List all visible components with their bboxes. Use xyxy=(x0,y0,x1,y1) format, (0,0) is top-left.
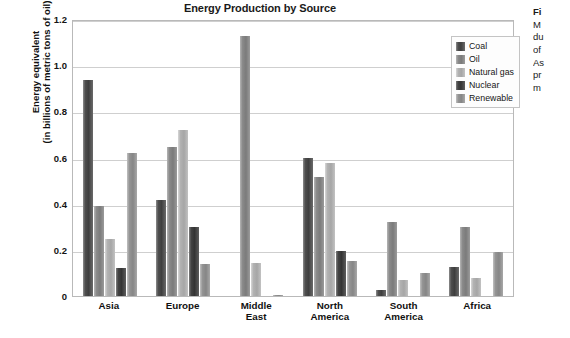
x-axis-tick-label-line: Europe xyxy=(146,300,220,311)
bar[interactable] xyxy=(471,278,481,296)
bar[interactable] xyxy=(336,251,346,296)
bar[interactable] xyxy=(387,222,397,296)
bar-group xyxy=(220,21,293,296)
x-axis-tick-label: NorthAmerica xyxy=(293,300,367,323)
x-axis-tick-label-line: America xyxy=(293,311,367,322)
legend-item[interactable]: Coal xyxy=(456,40,514,52)
legend-item[interactable]: Nuclear xyxy=(456,79,514,91)
x-axis-tick-label-line: Asia xyxy=(72,300,146,311)
bar[interactable] xyxy=(105,239,115,296)
legend-item[interactable]: Oil xyxy=(456,53,514,65)
legend-swatch-icon xyxy=(456,42,465,51)
caption-line: du xyxy=(533,31,570,44)
x-axis-tick-label: Europe xyxy=(146,300,220,323)
bar[interactable] xyxy=(347,261,357,296)
bar[interactable] xyxy=(460,227,470,296)
y-axis-tick-label: 0.2 xyxy=(27,245,67,256)
y-axis-tick-label: 1.0 xyxy=(27,60,67,71)
x-axis-tick-label: MiddleEast xyxy=(219,300,293,323)
bar-group xyxy=(73,21,146,296)
x-axis-tick-label-line: America xyxy=(367,311,441,322)
bar[interactable] xyxy=(303,158,313,297)
x-axis-tick-label-line: Africa xyxy=(440,300,514,311)
bar[interactable] xyxy=(325,163,335,296)
caption-line: pr xyxy=(533,69,570,82)
bar[interactable] xyxy=(493,252,503,296)
bar[interactable] xyxy=(420,273,430,296)
chart-page: Energy Production by Source Energy equiv… xyxy=(0,0,570,338)
bar-series-container xyxy=(73,21,513,296)
y-axis-tick-label: 0.4 xyxy=(27,199,67,210)
x-axis-tick-label-line: East xyxy=(219,311,293,322)
bar[interactable] xyxy=(156,200,166,296)
y-axis-tick-label: 0.6 xyxy=(27,153,67,164)
legend-label: Natural gas xyxy=(469,67,514,77)
bar[interactable] xyxy=(273,295,283,296)
legend-label: Nuclear xyxy=(469,80,499,90)
bar[interactable] xyxy=(127,153,137,296)
bar-group xyxy=(146,21,219,296)
caption-line: m xyxy=(533,82,570,95)
legend-label: Renewable xyxy=(469,93,513,103)
bar[interactable] xyxy=(116,268,126,296)
bar[interactable] xyxy=(449,267,459,296)
legend-swatch-icon xyxy=(456,68,465,77)
x-axis-tick-label: SouthAmerica xyxy=(367,300,441,323)
legend-item[interactable]: Renewable xyxy=(456,92,514,104)
bar-group xyxy=(293,21,366,296)
plot-area xyxy=(72,20,514,297)
bar[interactable] xyxy=(167,147,177,296)
bar[interactable] xyxy=(200,264,210,296)
y-axis-label: Energy equivalent (in billions of metric… xyxy=(30,0,54,172)
caption-line: of xyxy=(533,44,570,57)
bar[interactable] xyxy=(189,227,199,296)
x-axis-tick-label: Africa xyxy=(440,300,514,323)
bar[interactable] xyxy=(314,177,324,296)
caption-line: As xyxy=(533,57,570,70)
caption-line: M xyxy=(533,19,570,32)
bar[interactable] xyxy=(94,206,104,296)
y-axis-tick-label: 0.8 xyxy=(27,106,67,117)
caption-body: MduofAsprm xyxy=(533,19,570,95)
legend-item[interactable]: Natural gas xyxy=(456,66,514,78)
bar-group xyxy=(366,21,439,296)
bar[interactable] xyxy=(83,80,93,296)
x-axis-labels: AsiaEuropeMiddleEastNorthAmericaSouthAme… xyxy=(72,300,514,323)
chart-legend: CoalOilNatural gasNuclearRenewable xyxy=(451,36,520,108)
x-axis-tick-label-line: Middle xyxy=(219,300,293,311)
y-axis-tick-label: 0 xyxy=(27,291,67,302)
bar[interactable] xyxy=(376,290,386,296)
bar[interactable] xyxy=(251,263,261,296)
x-axis-tick-label-line: North xyxy=(293,300,367,311)
bar[interactable] xyxy=(178,130,188,296)
legend-swatch-icon xyxy=(456,81,465,90)
y-axis-tick-label: 1.2 xyxy=(27,14,67,25)
bar[interactable] xyxy=(240,36,250,296)
figure-caption: Fi MduofAsprm xyxy=(533,6,570,94)
legend-swatch-icon xyxy=(456,55,465,64)
caption-heading: Fi xyxy=(533,6,570,19)
legend-label: Coal xyxy=(469,41,487,51)
x-axis-tick-label-line: South xyxy=(367,300,441,311)
bar[interactable] xyxy=(398,280,408,296)
x-axis-tick-label: Asia xyxy=(72,300,146,323)
legend-swatch-icon xyxy=(456,94,465,103)
legend-label: Oil xyxy=(469,54,480,64)
chart-title: Energy Production by Source xyxy=(0,2,520,14)
